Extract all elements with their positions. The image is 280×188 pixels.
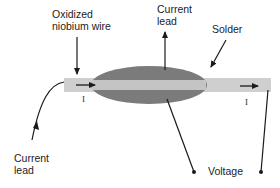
label-current-lead-top: Current lead [157, 4, 192, 27]
voltage-lead-left [167, 99, 194, 172]
label-voltage: Voltage [208, 166, 243, 178]
label-line: Oxidized [52, 9, 111, 21]
label-line: Current [157, 4, 192, 16]
current-symbol-left: I [82, 94, 85, 104]
wire-through-solder [92, 80, 206, 90]
voltage-terminal-right [259, 170, 263, 174]
label-oxidized-niobium-wire: Oxidized niobium wire [52, 9, 111, 32]
label-line: lead [14, 165, 49, 177]
label-line: Current [14, 153, 49, 165]
label-current-lead-bottom: Current lead [14, 153, 49, 176]
voltage-lead-right [261, 90, 268, 172]
current-symbol-right: I [245, 97, 248, 107]
voltage-terminal-left [192, 170, 196, 174]
current-lead-bottom-wire [32, 82, 64, 140]
label-solder: Solder [212, 24, 242, 36]
label-line: lead [157, 16, 192, 28]
solder-pointer-arrow [211, 40, 226, 67]
label-line: niobium wire [52, 21, 111, 33]
